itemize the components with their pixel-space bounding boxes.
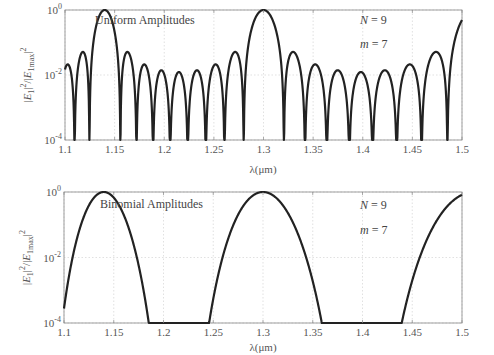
svg-text:1.35: 1.35: [304, 143, 324, 155]
y-tick-labels: 10010-210-4: [44, 2, 62, 146]
y-axis-label: |E1|2/|E1max|2: [19, 47, 36, 102]
svg-text:1.35: 1.35: [303, 326, 323, 338]
svg-text:1.4: 1.4: [356, 143, 370, 155]
annotation-n: N = 9: [359, 198, 387, 212]
svg-text:1.3: 1.3: [257, 143, 271, 155]
svg-text:1.4: 1.4: [356, 326, 370, 338]
svg-text:|E1|2/|E1max|2: |E1|2/|E1max|2: [18, 230, 35, 285]
svg-text:1.5: 1.5: [455, 326, 469, 338]
svg-text:1.45: 1.45: [403, 326, 423, 338]
svg-text:1.15: 1.15: [104, 326, 124, 338]
chart-title: Binomial Amplitudes: [100, 197, 203, 211]
uniform-amplitudes-chart: 1.11.151.21.251.31.351.41.451.5 10010-21…: [0, 0, 494, 178]
svg-text:1.1: 1.1: [58, 143, 72, 155]
x-axis-label: λ(μm): [249, 341, 276, 354]
chart-title: Uniform Amplitudes: [95, 13, 195, 27]
grid-lines: [64, 192, 462, 323]
x-axis-label: λ(μm): [249, 163, 276, 176]
svg-text:10-2: 10-2: [44, 67, 62, 81]
svg-text:1.1: 1.1: [57, 326, 71, 338]
annotation-m: m = 7: [360, 223, 387, 237]
svg-text:1.2: 1.2: [157, 143, 171, 155]
svg-text:|E1|2/|E1max|2: |E1|2/|E1max|2: [19, 47, 36, 102]
y-tick-labels: 10010-210-4: [43, 184, 61, 329]
y-axis-label: |E1|2/|E1max|2: [18, 230, 35, 285]
binomial-amplitudes-chart: 1.11.151.21.251.31.351.41.451.5 10010-21…: [0, 180, 494, 355]
svg-text:1.5: 1.5: [455, 143, 469, 155]
svg-text:1.3: 1.3: [256, 326, 270, 338]
svg-text:1.2: 1.2: [157, 326, 171, 338]
svg-text:1.25: 1.25: [204, 143, 224, 155]
svg-text:1.45: 1.45: [403, 143, 423, 155]
binomial-chart-svg: 1.11.151.21.251.31.351.41.451.5 10010-21…: [0, 180, 494, 355]
uniform-chart-svg: 1.11.151.21.251.31.351.41.451.5 10010-21…: [0, 0, 494, 178]
svg-text:100: 100: [46, 184, 61, 198]
svg-text:1.15: 1.15: [105, 143, 125, 155]
svg-text:10-2: 10-2: [43, 250, 61, 264]
svg-text:100: 100: [47, 2, 62, 16]
svg-text:1.25: 1.25: [204, 326, 224, 338]
annotation-m: m = 7: [360, 37, 387, 51]
annotation-n: N = 9: [359, 13, 387, 27]
